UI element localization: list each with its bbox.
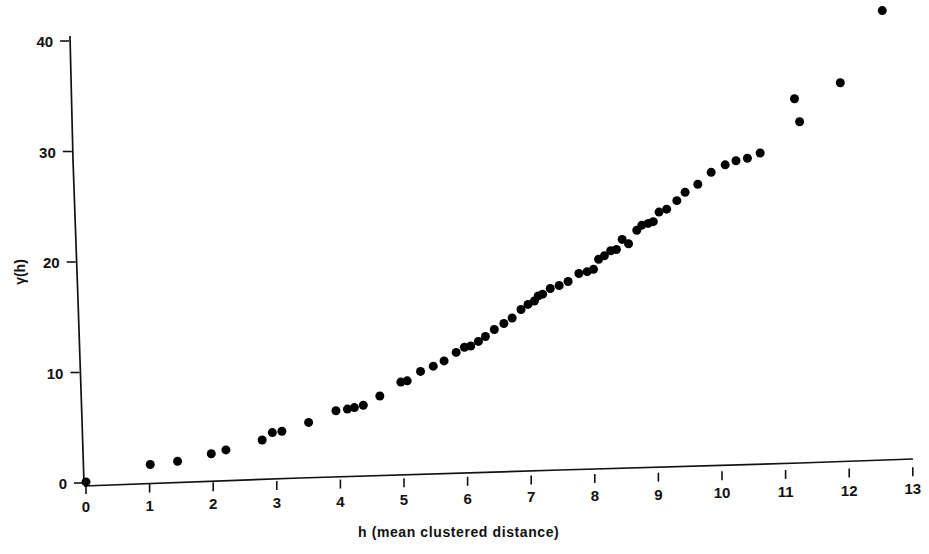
data-point: [662, 205, 671, 214]
data-point: [440, 356, 449, 365]
data-point: [574, 269, 583, 278]
data-point-group: [82, 6, 887, 486]
data-point: [490, 325, 499, 334]
data-point: [268, 428, 277, 437]
x-tick-label-10: 10: [714, 484, 731, 501]
data-point: [146, 460, 155, 469]
data-point: [836, 78, 845, 87]
data-point: [173, 457, 182, 466]
data-point: [681, 188, 690, 197]
axis-lines: [70, 36, 913, 486]
x-axis-tick-labels: 012345678910111213: [82, 480, 921, 515]
x-tick-label-1: 1: [145, 497, 153, 514]
x-tick-label-5: 5: [400, 491, 408, 508]
y-tick-label-40: 40: [36, 33, 53, 50]
data-point: [707, 168, 716, 177]
x-tick-label-9: 9: [654, 486, 662, 503]
data-point: [508, 314, 517, 323]
data-point: [649, 217, 658, 226]
data-point: [795, 117, 804, 126]
x-tick-label-3: 3: [273, 494, 281, 511]
data-point: [350, 403, 359, 412]
data-point: [221, 445, 230, 454]
data-point: [304, 418, 313, 427]
data-point: [375, 392, 384, 401]
data-point: [555, 281, 564, 290]
x-tick-label-8: 8: [591, 487, 599, 504]
data-point: [790, 94, 799, 103]
y-axis-title: γ(h): [12, 259, 28, 285]
data-point: [878, 6, 887, 15]
x-tick-label-12: 12: [841, 482, 858, 499]
data-point: [564, 277, 573, 286]
data-point: [693, 180, 702, 189]
data-point: [403, 376, 412, 385]
x-axis-line: [84, 459, 913, 486]
data-point: [258, 435, 267, 444]
data-point: [331, 406, 340, 415]
x-tick-label-13: 13: [904, 480, 921, 497]
x-axis-title: h (mean clustered distance): [358, 524, 559, 540]
y-tick-label-0: 0: [59, 475, 67, 492]
figure-container: 012345678910111213 010203040 h (mean clu…: [0, 0, 929, 554]
data-point: [721, 160, 730, 169]
data-point: [756, 149, 765, 158]
x-tick-label-2: 2: [209, 495, 217, 512]
y-tick-label-10: 10: [47, 365, 64, 382]
data-point: [466, 341, 475, 350]
data-point: [207, 449, 216, 458]
data-point: [589, 265, 598, 274]
data-point: [481, 332, 490, 341]
y-tick-label-20: 20: [43, 254, 60, 271]
x-tick-label-6: 6: [463, 490, 471, 507]
data-point: [277, 427, 286, 436]
data-point: [429, 362, 438, 371]
data-point: [743, 154, 752, 163]
data-point: [452, 348, 461, 357]
x-tick-label-0: 0: [82, 498, 90, 515]
data-point: [538, 290, 547, 299]
data-point: [82, 477, 91, 486]
y-axis-line: [70, 36, 84, 484]
x-tick-label-7: 7: [527, 488, 535, 505]
data-point: [612, 245, 621, 254]
data-point: [624, 239, 633, 248]
data-point: [416, 367, 425, 376]
data-point: [546, 284, 555, 293]
data-point: [359, 401, 368, 410]
data-point: [731, 156, 740, 165]
y-axis-tick-labels: 010203040: [36, 33, 67, 492]
x-tick-label-4: 4: [336, 493, 345, 510]
data-point: [499, 319, 508, 328]
scatter-plot: 012345678910111213 010203040 h (mean clu…: [0, 0, 929, 554]
data-point: [672, 196, 681, 205]
x-tick-label-11: 11: [778, 483, 794, 500]
y-tick-label-30: 30: [39, 144, 56, 161]
